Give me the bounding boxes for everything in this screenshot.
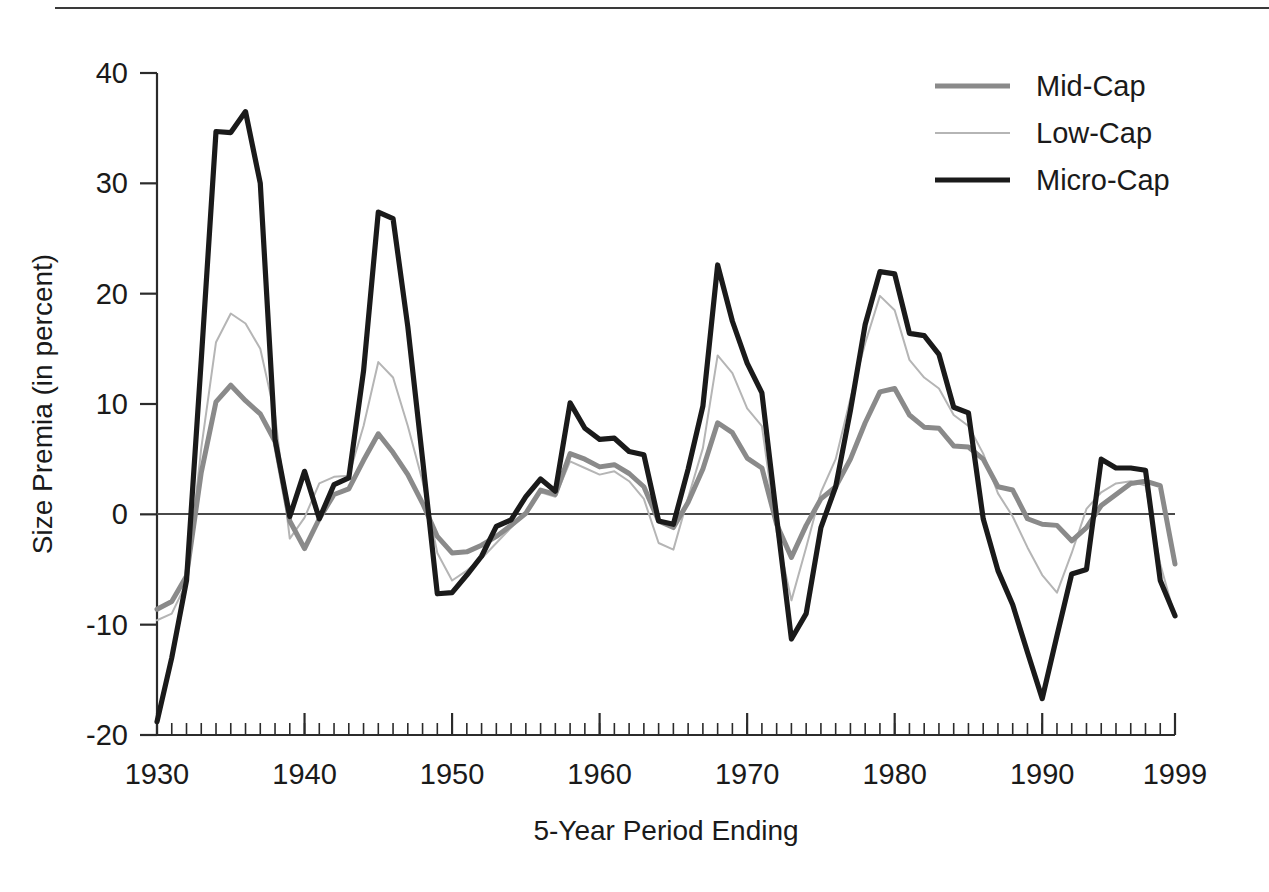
y-tick-label: -10 [86,609,128,641]
y-tick-label: -20 [86,719,128,751]
y-tick-label: 30 [96,167,128,199]
x-axis-minor-ticks [157,723,1175,735]
y-axis-title: Size Premia (in percent) [27,254,58,554]
y-tick-label: 0 [112,498,128,530]
series-line-micro-cap [157,112,1175,722]
chart-legend: Mid-Cap Low-Cap Micro-Cap [935,70,1170,196]
series-line-mid-cap [157,385,1175,609]
figure-container: 403020100-10-20 193019401950196019701980… [0,0,1269,892]
x-tick-label: 1930 [125,758,190,790]
y-tick-label: 10 [96,388,128,420]
series-group [157,112,1175,722]
x-tick-label: 1970 [715,758,780,790]
size-premia-line-chart: 403020100-10-20 193019401950196019701980… [0,0,1269,892]
y-axis-ticks [140,73,157,735]
legend-label-mid-cap: Mid-Cap [1036,70,1146,102]
x-tick-label: 1950 [420,758,485,790]
x-tick-label: 1999 [1143,758,1208,790]
y-tick-label: 20 [96,278,128,310]
x-tick-label: 1980 [862,758,927,790]
x-axis-title: 5-Year Period Ending [533,815,798,846]
x-axis-tick-labels: 19301940195019601970198019901999 [125,758,1208,790]
y-axis-tick-labels: 403020100-10-20 [86,57,128,751]
x-tick-label: 1960 [567,758,632,790]
x-axis-major-ticks [157,713,1175,735]
legend-label-micro-cap: Micro-Cap [1036,164,1170,196]
x-tick-label: 1990 [1010,758,1075,790]
series-line-low-cap [157,296,1175,620]
legend-item-mid-cap[interactable]: Mid-Cap [935,70,1146,102]
y-tick-label: 40 [96,57,128,89]
legend-item-low-cap[interactable]: Low-Cap [935,117,1152,149]
x-tick-label: 1940 [272,758,337,790]
legend-item-micro-cap[interactable]: Micro-Cap [935,164,1170,196]
legend-label-low-cap: Low-Cap [1036,117,1152,149]
